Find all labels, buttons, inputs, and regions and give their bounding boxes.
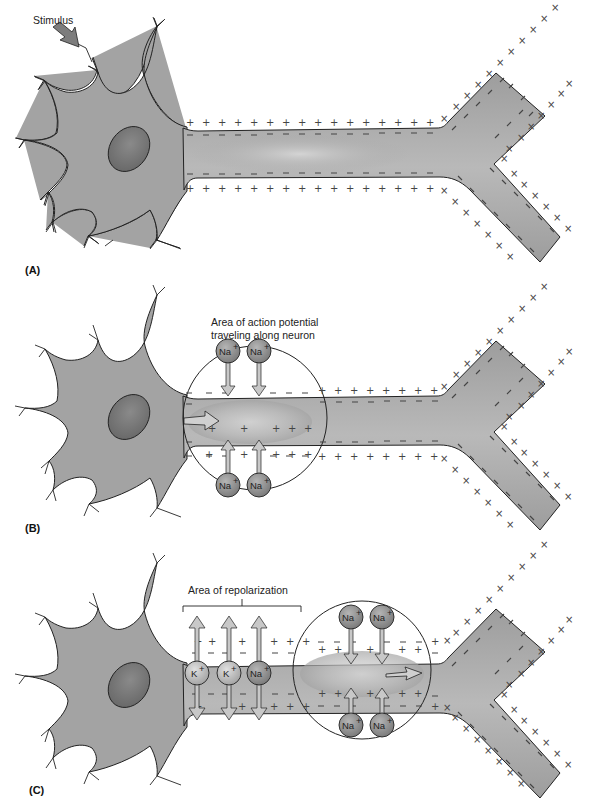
svg-text:×: × [443,635,451,646]
svg-text:×: × [542,737,550,748]
svg-text:×: × [506,767,514,778]
svg-text:+: + [414,451,422,462]
svg-text:×: × [452,369,460,380]
svg-text:+: + [302,701,310,712]
svg-text:+: + [218,183,226,194]
svg-text:×: × [451,712,459,723]
svg-text:Na: Na [219,346,232,357]
svg-text:+: + [350,451,358,462]
svg-text:×: × [507,572,515,583]
svg-text:+: + [398,688,406,699]
svg-text:×: × [500,689,508,700]
svg-text:+: + [378,117,386,128]
svg-text:+: + [334,385,342,396]
svg-text:Na: Na [250,346,263,357]
svg-text:+: + [362,183,370,194]
panel-label-c: (C) [29,784,45,796]
svg-text:×: × [551,2,559,13]
svg-text:+: + [410,117,418,128]
svg-text:+: + [234,117,242,128]
svg-text:×: × [463,358,471,369]
svg-text:×: × [500,153,508,164]
svg-text:+: + [431,701,439,712]
neuron-diagram: ++++++++++++++++ ++++++++++++++++ ××××××… [0,0,591,802]
svg-text:×: × [440,113,448,124]
svg-text:Na: Na [219,480,232,491]
svg-text:×: × [517,132,525,143]
svg-text:+: + [387,715,393,726]
svg-text:K: K [223,668,230,679]
svg-text:Na: Na [342,612,355,623]
panel-label-a: (A) [25,264,41,276]
svg-text:×: × [440,453,448,464]
svg-text:+: + [330,183,338,194]
svg-text:+: + [298,117,306,128]
svg-text:×: × [474,347,482,358]
svg-text:×: × [527,389,535,400]
svg-text:×: × [462,475,470,486]
soma [25,563,187,776]
svg-text:+: + [334,451,342,462]
ion-na-top-left: Na + [216,339,240,396]
svg-text:+: + [430,451,438,462]
svg-text:+: + [272,423,280,434]
svg-text:×: × [547,635,555,646]
svg-text:+: + [314,117,322,128]
svg-text:+: + [346,117,354,128]
svg-text:+: + [394,117,402,128]
svg-text:+: + [356,715,362,726]
svg-text:×: × [540,13,548,24]
svg-text:×: × [452,101,460,112]
svg-text:+: + [286,636,294,647]
svg-text:+: + [318,385,326,396]
svg-text:×: × [520,179,528,190]
svg-text:+: + [318,688,326,699]
axon-highlight [190,134,410,174]
svg-text:×: × [517,778,525,789]
svg-text:×: × [529,24,537,35]
svg-text:×: × [440,185,448,196]
svg-text:+: + [270,701,278,712]
svg-text:+: + [266,117,274,128]
svg-text:×: × [510,704,518,715]
svg-text:×: × [537,646,545,657]
svg-text:×: × [547,99,555,110]
svg-text:+: + [234,183,242,194]
svg-text:+: + [208,636,216,647]
svg-text:×: × [463,90,471,101]
svg-text:+: + [199,663,205,674]
ion-na-bottom-right: Na + [247,440,271,497]
svg-text:×: × [451,464,459,475]
svg-text:+: + [250,183,258,194]
svg-text:+: + [387,607,393,618]
svg-text:×: × [506,519,514,530]
svg-text:×: × [462,207,470,218]
svg-text:+: + [298,183,306,194]
svg-text:+: + [414,385,422,396]
svg-text:Na: Na [342,720,355,731]
svg-text:×: × [565,614,573,625]
svg-text:×: × [452,627,460,638]
svg-text:+: + [282,183,290,194]
svg-text:+: + [356,607,362,618]
svg-text:+: + [394,183,402,194]
svg-text:×: × [527,657,535,668]
svg-text:+: + [366,385,374,396]
svg-text:×: × [473,486,481,497]
svg-text:Na: Na [373,612,386,623]
ion-na-bottom-left: Na + [216,440,240,497]
svg-text:+: + [334,644,342,655]
svg-text:×: × [520,447,528,458]
svg-text:×: × [537,110,545,121]
svg-text:×: × [484,229,492,240]
svg-text:+: + [302,636,310,647]
svg-text:×: × [565,346,573,357]
svg-text:×: × [474,605,482,616]
svg-text:×: × [473,734,481,745]
svg-text:+: + [266,183,274,194]
svg-text:×: × [540,539,548,550]
svg-text:+: + [334,688,342,699]
svg-text:+: + [282,117,290,128]
svg-text:+: + [398,451,406,462]
svg-text:×: × [463,616,471,627]
